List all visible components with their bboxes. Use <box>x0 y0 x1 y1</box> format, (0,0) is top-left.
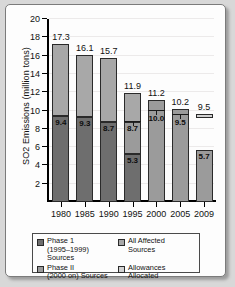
x-axis-tick <box>156 202 157 207</box>
x-axis-tick <box>204 202 205 207</box>
allowance-tick <box>133 122 134 126</box>
legend-label-line2: Allocated <box>128 272 165 281</box>
bar-segment[interactable] <box>100 122 117 202</box>
legend-item-phase-1[interactable]: Phase 1(1995–1999) Sources <box>37 237 116 263</box>
bar-value-label: 5.7 <box>199 152 210 161</box>
x-axis-tick <box>61 202 62 207</box>
y-axis-tick <box>42 18 47 19</box>
bar-segment[interactable] <box>76 55 93 117</box>
x-axis-label: 1985 <box>75 209 95 219</box>
x-axis-label: 2005 <box>170 209 190 219</box>
x-axis-label: 1990 <box>99 209 119 219</box>
bar-segment[interactable] <box>76 117 93 202</box>
allowance-value-label: 9.5 <box>175 118 186 127</box>
floating-allowance-bar[interactable] <box>196 114 213 118</box>
bar-top-label: 11.2 <box>148 88 165 98</box>
legend-swatch-icon <box>37 239 44 246</box>
bar-group[interactable]: 5.79.5 <box>196 19 213 202</box>
y-axis-label: 16 <box>30 51 40 61</box>
y-axis-line <box>47 19 49 202</box>
y-axis-tick <box>42 36 47 37</box>
bar-group[interactable]: 8.715.7 <box>100 19 117 202</box>
legend-swatch-icon <box>118 239 125 246</box>
x-axis-tick <box>109 202 110 207</box>
y-axis-label: 8 <box>35 124 40 134</box>
legend-swatch-icon <box>37 266 44 273</box>
y-axis-tick <box>42 128 47 129</box>
bar-group[interactable]: 5.38.711.9 <box>124 19 141 202</box>
legend-item-allowances[interactable]: AllowancesAllocated <box>118 264 197 281</box>
bar-top-label: 10.2 <box>171 97 189 107</box>
bar-group[interactable]: 9.510.2 <box>172 19 189 202</box>
bar-top-label: 16.1 <box>76 43 94 53</box>
bar-segment[interactable] <box>124 93 141 122</box>
legend-label-line2: (2000 on) Sources <box>47 272 108 281</box>
y-axis-label: 2 <box>35 179 40 189</box>
legend-label-line2: Sources <box>128 246 165 255</box>
y-axis-label: 20 <box>30 14 40 24</box>
chart-legend: Phase 1(1995–1999) SourcesAll AffectedSo… <box>32 233 200 273</box>
bar-segment[interactable] <box>52 116 69 202</box>
x-axis-label: 1980 <box>51 209 71 219</box>
y-axis-tick <box>42 55 47 56</box>
x-axis-label: 2000 <box>146 209 166 219</box>
allowance-value-label: 10.0 <box>149 114 165 123</box>
y-axis-label: 10 <box>30 106 40 116</box>
bar-value-label: 8.7 <box>103 124 114 133</box>
bar-top-label: 11.9 <box>124 81 141 91</box>
bar-segment[interactable] <box>52 44 69 116</box>
bar-segment[interactable] <box>100 58 117 122</box>
y-axis-tick <box>42 91 47 92</box>
bar-value-label: 5.3 <box>127 156 138 165</box>
y-axis-label: 6 <box>35 142 40 152</box>
legend-item-label: Phase 1(1995–1999) Sources <box>47 237 116 263</box>
legend-swatch-icon <box>118 266 125 273</box>
y-axis-tick <box>42 146 47 147</box>
legend-label-line2: (1995–1999) Sources <box>47 246 116 263</box>
y-axis-label: 14 <box>30 69 40 79</box>
y-axis-tick <box>42 183 47 184</box>
legend-item-phase-2[interactable]: Phase II(2000 on) Sources <box>37 264 116 281</box>
y-axis-tick <box>42 110 47 111</box>
x-axis-tick <box>133 202 134 207</box>
bar-top-label: 15.7 <box>100 46 118 56</box>
bar-value-label: 9.3 <box>79 119 90 128</box>
bar-top-label: 9.5 <box>198 102 211 112</box>
legend-item-label: AllowancesAllocated <box>128 264 165 281</box>
legend-item-label: All AffectedSources <box>128 237 165 254</box>
x-axis-tick <box>180 202 181 207</box>
chart-panel: SO2 Emissions (million tons) 24681012141… <box>5 4 226 277</box>
x-axis-tick <box>85 202 86 207</box>
legend-item-all-affected[interactable]: All AffectedSources <box>118 237 197 263</box>
x-axis-label: 1995 <box>122 209 142 219</box>
bar-group[interactable]: 9.417.3 <box>52 19 69 202</box>
bar-group[interactable]: 9.316.1 <box>76 19 93 202</box>
y-axis-label: 18 <box>30 32 40 42</box>
x-axis-label: 2009 <box>194 209 214 219</box>
bar-group[interactable]: 10.011.2 <box>148 19 165 202</box>
y-axis-tick <box>42 73 47 74</box>
y-axis-label: 4 <box>35 160 40 170</box>
legend-item-label: Phase II(2000 on) Sources <box>47 264 108 281</box>
y-axis-tick <box>42 164 47 165</box>
bar-top-label: 17.3 <box>52 32 70 42</box>
y-axis-label: 12 <box>30 87 40 97</box>
bar-value-label: 9.4 <box>55 118 66 127</box>
plot-region: 2468101214161820 9.417.39.316.18.715.75.… <box>47 19 214 202</box>
